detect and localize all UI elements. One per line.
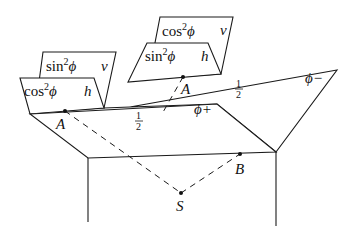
branching-surface-diagram: A A B S ϕ+ ϕ− 1 2 1 2 sin2ϕ v cos2ϕ h co… xyxy=(0,0,351,235)
label-A-lower: A xyxy=(55,116,66,132)
svg-text:2: 2 xyxy=(236,89,241,100)
label-phi-plus: ϕ+ xyxy=(194,101,212,117)
label-S: S xyxy=(176,198,184,214)
left-back-pol: v xyxy=(101,58,108,74)
label-B: B xyxy=(235,161,244,177)
right-back-pol: v xyxy=(220,22,227,38)
point-A-upper xyxy=(181,75,185,79)
left-back-coef: sin2ϕ xyxy=(46,56,77,74)
left-front-pol: h xyxy=(84,83,92,99)
path-S-B xyxy=(181,154,240,193)
right-front-coef: sin2ϕ xyxy=(145,46,176,64)
svg-text:1: 1 xyxy=(136,110,141,121)
point-B xyxy=(238,152,242,156)
label-phi-minus: ϕ− xyxy=(305,70,323,86)
right-back-coef: cos2ϕ xyxy=(162,21,195,39)
svg-text:2: 2 xyxy=(136,121,141,132)
svg-text:1: 1 xyxy=(236,78,241,89)
point-A-lower xyxy=(63,109,67,113)
point-S xyxy=(179,191,183,195)
junction-edge xyxy=(104,107,130,108)
right-front-pol: h xyxy=(201,48,209,64)
label-A-upper: A xyxy=(180,81,191,97)
left-front-coef: cos2ϕ xyxy=(24,81,57,99)
